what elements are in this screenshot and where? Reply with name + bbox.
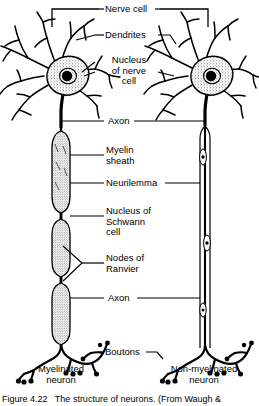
label-axon-bottom: Axon [108,293,130,304]
soma-right [191,56,233,95]
label-non-myelinated-neuron: Non-myelinated neuron [150,364,258,385]
nucleus-left [62,71,72,81]
label-axon-top: Axon [108,116,130,127]
non-myelinated-neuron [144,12,259,385]
label-neurilemma: Neurilemma [106,178,157,189]
figure-caption: Figure 4.22 The structure of neurons. (F… [2,394,259,406]
soma-left [47,56,89,95]
label-nodes-of-ranvier: Nodes of Ranvier [106,253,144,274]
myelin-sheath-segments [52,131,70,345]
label-myelin-sheath: Myelin sheath [106,145,135,166]
label-dendrites: Dendrites [105,30,146,41]
nucleus-right [206,71,216,81]
label-nucleus-of-schwann-cell: Nucleus of Schwann cell [106,206,151,238]
label-nucleus-of-nerve-cell: Nucleus of nerve cell [100,55,158,87]
label-nerve-cell: Nerve cell [105,4,147,15]
label-boutons: Boutons [105,347,140,358]
label-myelinated-neuron: Myelinated neuron [15,364,107,385]
